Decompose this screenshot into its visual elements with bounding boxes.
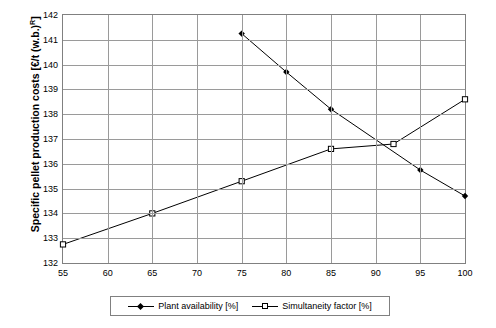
y-tick-label: 132 [43, 258, 58, 268]
y-axis-tick-labels: 132133134135136137138139140141142 [28, 14, 58, 264]
y-tick-label: 142 [43, 10, 58, 20]
data-point-marker [462, 193, 468, 199]
y-tick-label: 139 [43, 84, 58, 94]
x-tick-label: 90 [361, 268, 391, 278]
legend-item-0[interactable]: Plant availability [%] [128, 301, 238, 311]
gridline-vertical [152, 15, 153, 263]
x-tick-label: 95 [405, 268, 435, 278]
x-tick-label: 60 [93, 268, 123, 278]
x-axis-tick-labels: 556065707580859095100 [62, 268, 466, 282]
gridline-vertical [286, 15, 287, 263]
data-point-marker [462, 97, 467, 102]
gridline-horizontal [63, 164, 465, 165]
x-tick-label: 80 [271, 268, 301, 278]
legend-label: Simultaneity factor [%] [282, 301, 372, 311]
gridline-horizontal [63, 114, 465, 115]
gridline-horizontal [63, 139, 465, 140]
x-tick-label: 100 [450, 268, 480, 278]
gridline-horizontal [63, 65, 465, 66]
legend-label: Plant availability [%] [158, 301, 238, 311]
gridline-vertical [108, 15, 109, 263]
y-tick-label: 137 [43, 134, 58, 144]
chart-container: Specific pellet production costs [€/t (w… [0, 0, 496, 328]
gridline-vertical [420, 15, 421, 263]
diamond-marker-icon [128, 302, 154, 311]
x-tick-label: 70 [182, 268, 212, 278]
y-tick-label: 140 [43, 60, 58, 70]
data-point-marker [391, 141, 396, 146]
square-marker-icon [252, 302, 278, 311]
data-point-marker [60, 242, 65, 247]
gridline-vertical [242, 15, 243, 263]
series-line-1 [63, 99, 465, 244]
y-tick-label: 141 [43, 35, 58, 45]
x-tick-label: 65 [137, 268, 167, 278]
gridline-horizontal [63, 189, 465, 190]
gridline-vertical [376, 15, 377, 263]
x-tick-label: 75 [227, 268, 257, 278]
y-tick-label: 133 [43, 233, 58, 243]
x-tick-label: 55 [48, 268, 78, 278]
x-tick-label: 85 [316, 268, 346, 278]
gridline-horizontal [63, 213, 465, 214]
gridline-horizontal [63, 40, 465, 41]
y-tick-label: 136 [43, 159, 58, 169]
y-tick-label: 138 [43, 109, 58, 119]
y-tick-label: 134 [43, 208, 58, 218]
legend-item-1[interactable]: Simultaneity factor [%] [252, 301, 372, 311]
chart-legend: Plant availability [%]Simultaneity facto… [110, 296, 390, 316]
gridline-horizontal [63, 238, 465, 239]
gridline-vertical [197, 15, 198, 263]
y-tick-label: 135 [43, 184, 58, 194]
gridline-horizontal [63, 89, 465, 90]
plot-area [62, 14, 466, 264]
gridline-vertical [331, 15, 332, 263]
